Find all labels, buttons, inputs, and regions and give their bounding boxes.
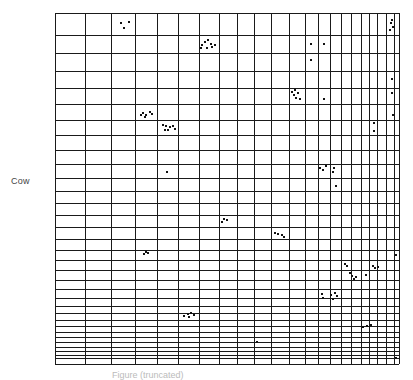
data-point xyxy=(389,29,391,31)
data-point xyxy=(149,111,151,113)
data-point xyxy=(390,22,392,24)
data-point xyxy=(322,297,324,299)
data-point xyxy=(319,167,321,169)
data-point xyxy=(355,276,357,278)
data-point xyxy=(274,232,276,234)
data-point xyxy=(211,46,213,48)
data-point xyxy=(391,78,393,80)
data-point xyxy=(204,41,206,43)
data-point xyxy=(166,171,168,173)
data-point xyxy=(330,294,332,296)
data-point xyxy=(392,26,394,28)
data-point xyxy=(145,251,147,253)
data-point xyxy=(174,128,176,130)
data-point xyxy=(123,27,125,29)
data-point xyxy=(143,253,145,255)
data-point xyxy=(332,298,334,300)
data-point xyxy=(310,43,312,45)
data-point xyxy=(293,94,295,96)
data-point xyxy=(172,125,174,127)
data-point xyxy=(201,44,203,46)
data-point xyxy=(297,92,299,94)
data-point xyxy=(128,21,130,23)
data-point xyxy=(283,236,285,238)
data-point xyxy=(144,116,146,118)
data-point xyxy=(332,171,334,173)
data-point xyxy=(256,341,258,343)
data-point xyxy=(349,272,351,274)
data-point xyxy=(277,233,279,235)
data-point xyxy=(206,47,208,49)
data-point xyxy=(281,234,283,236)
grid-lines xyxy=(55,13,400,365)
data-point xyxy=(335,185,337,187)
data-point xyxy=(334,292,336,294)
data-point xyxy=(377,266,379,268)
data-point xyxy=(353,278,355,280)
data-point xyxy=(200,47,202,49)
data-point xyxy=(370,324,372,326)
data-point xyxy=(210,43,212,45)
data-point xyxy=(346,265,348,267)
data-point xyxy=(165,125,167,127)
data-point xyxy=(142,112,144,114)
data-point xyxy=(366,325,368,327)
data-point xyxy=(140,114,142,116)
data-point xyxy=(395,254,397,256)
data-point xyxy=(167,129,169,131)
data-point xyxy=(310,59,312,61)
data-point xyxy=(187,313,189,315)
data-point xyxy=(372,265,374,267)
data-point xyxy=(299,98,301,100)
data-point xyxy=(223,218,225,220)
data-point xyxy=(325,165,327,167)
figure-caption: Figure (truncated) xyxy=(112,370,184,380)
data-point xyxy=(221,221,223,223)
data-point xyxy=(190,312,192,314)
data-point xyxy=(392,114,394,116)
data-point xyxy=(373,130,375,132)
data-point xyxy=(333,167,335,169)
data-point xyxy=(362,326,364,328)
data-point xyxy=(336,295,338,297)
data-point xyxy=(323,43,325,45)
data-point xyxy=(344,263,346,265)
data-point xyxy=(295,97,297,99)
data-point xyxy=(169,126,171,128)
data-point xyxy=(214,44,216,46)
data-point xyxy=(374,267,376,269)
data-point xyxy=(373,122,375,124)
data-point xyxy=(164,129,166,131)
data-point xyxy=(351,275,353,277)
data-point xyxy=(120,22,122,24)
data-point xyxy=(207,39,209,41)
data-point xyxy=(226,219,228,221)
data-point xyxy=(322,169,324,171)
data-point xyxy=(193,314,195,316)
data-point xyxy=(323,98,325,100)
data-points xyxy=(120,19,397,359)
data-point xyxy=(321,293,323,295)
data-point xyxy=(291,91,293,93)
data-point xyxy=(294,89,296,91)
data-point xyxy=(145,114,147,116)
data-point xyxy=(162,124,164,126)
data-point xyxy=(391,19,393,21)
data-point xyxy=(365,274,367,276)
data-point xyxy=(391,92,393,94)
data-point xyxy=(395,357,397,359)
data-point xyxy=(188,316,190,318)
data-point xyxy=(147,252,149,254)
data-point xyxy=(183,315,185,317)
data-point xyxy=(151,113,153,115)
